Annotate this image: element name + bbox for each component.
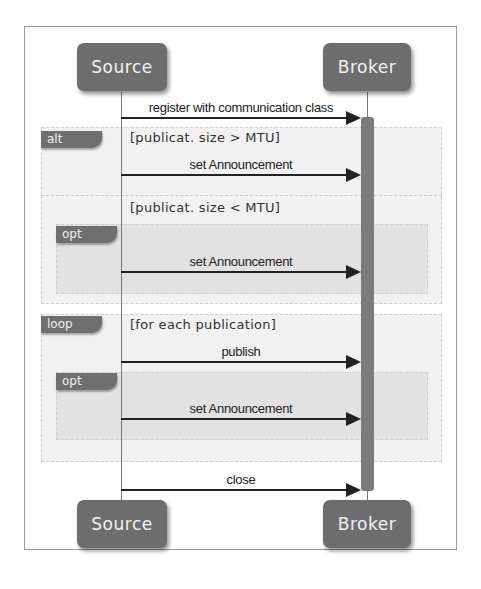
message-label-set-announcement-2: set Announcement xyxy=(121,254,361,269)
message-arrow-close xyxy=(121,489,351,491)
arrowhead-icon xyxy=(346,111,361,125)
message-arrow-publish xyxy=(121,361,351,363)
source-actor-bottom: Source xyxy=(77,500,167,548)
alt-tag: alt xyxy=(41,131,102,148)
message-arrow-set-announcement-3 xyxy=(121,418,351,420)
message-label-close: close xyxy=(121,472,361,487)
message-label-set-announcement-3: set Announcement xyxy=(121,401,361,416)
arrowhead-icon xyxy=(346,355,361,369)
opt-tag-2: opt xyxy=(56,373,117,390)
alt-separator xyxy=(41,195,442,196)
loop-guard: [for each publication] xyxy=(130,317,276,332)
source-actor-top: Source xyxy=(77,43,167,91)
message-arrow-set-announcement-1 xyxy=(121,174,351,176)
broker-activation-bar xyxy=(361,117,374,491)
message-label-set-announcement-1: set Announcement xyxy=(121,157,361,172)
message-arrow-register xyxy=(121,117,351,119)
loop-tag: loop xyxy=(41,316,102,333)
message-label-publish: publish xyxy=(121,344,361,359)
alt-guard-2: [publicat. size < MTU] xyxy=(130,200,280,215)
broker-actor-top: Broker xyxy=(323,43,411,91)
arrowhead-icon xyxy=(346,265,361,279)
broker-actor-bottom: Broker xyxy=(323,500,411,548)
message-label-register: register with communication class xyxy=(121,100,361,115)
arrowhead-icon xyxy=(346,483,361,497)
arrowhead-icon xyxy=(346,412,361,426)
alt-guard-1: [publicat. size > MTU] xyxy=(130,130,280,145)
message-arrow-set-announcement-2 xyxy=(121,271,351,273)
arrowhead-icon xyxy=(346,168,361,182)
opt-tag-1: opt xyxy=(56,226,117,243)
